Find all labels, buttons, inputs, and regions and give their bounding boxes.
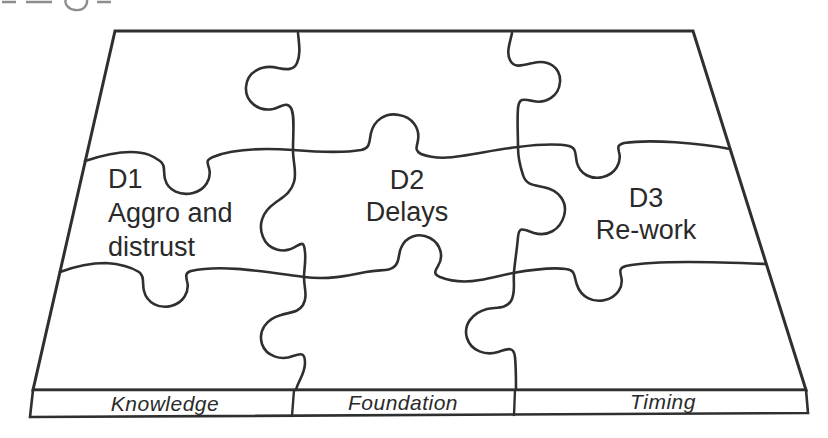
base-segment-timing-label: Timing bbox=[630, 390, 696, 413]
front-edge-divider-2 bbox=[514, 390, 515, 415]
piece-d1-id-label: D1 bbox=[108, 164, 143, 194]
piece-d3-label-line1: Re-work bbox=[596, 215, 697, 245]
base-segment-foundation-label: Foundation bbox=[348, 391, 458, 414]
piece-d1-label-line2: distrust bbox=[108, 232, 196, 262]
piece-d1-label-line1: Aggro and bbox=[108, 198, 233, 228]
cropped-text-fragment bbox=[2, 0, 111, 10]
base-segment-knowledge-label: Knowledge bbox=[111, 392, 219, 415]
figure-container: D1 Aggro and distrust D2 Delays D3 Re-wo… bbox=[0, 0, 828, 438]
piece-d3-id-label: D3 bbox=[629, 183, 664, 213]
piece-d2-id-label: D2 bbox=[390, 165, 425, 195]
puzzle-figure-svg: D1 Aggro and distrust D2 Delays D3 Re-wo… bbox=[0, 0, 828, 438]
piece-d2-label-line1: Delays bbox=[366, 197, 449, 227]
